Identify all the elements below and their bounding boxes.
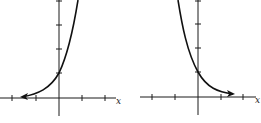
x-axis-label: x — [255, 95, 260, 105]
right-graph: x — [140, 0, 260, 115]
figure: x x — [0, 0, 261, 123]
decay-curve — [178, 0, 233, 94]
x-axis-label: x — [116, 96, 121, 106]
left-graph: x — [0, 0, 121, 116]
growth-curve — [22, 0, 78, 97]
